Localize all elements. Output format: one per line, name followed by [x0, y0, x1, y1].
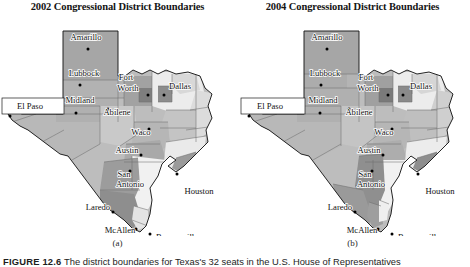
city-dot-brownsville	[391, 233, 394, 236]
city-dot-lubbock	[79, 84, 82, 87]
city-dot-houston	[176, 173, 179, 176]
city-label-abilene: Abilene	[103, 107, 130, 117]
city-dot-amarillo	[87, 48, 90, 51]
district-fort-worth-core	[379, 88, 393, 102]
city-label-worth: Worth	[357, 83, 379, 93]
figure-number: FIGURE 12.6	[3, 256, 61, 267]
city-dot-fort-worth	[147, 94, 150, 97]
city-dot-midland	[75, 112, 78, 115]
panel-2002: 2002 Congressional District Boundaries	[0, 0, 235, 250]
map-2004: Amarillo Lubbock Fort Worth Dallas Midla…	[235, 14, 470, 236]
city-label-austin: Austin	[358, 145, 382, 155]
city-label-antonio: Antonio	[116, 179, 144, 189]
city-label-el-paso: El Paso	[257, 101, 283, 111]
figure-caption: FIGURE 12.6 The district boundaries for …	[3, 256, 469, 267]
city-label-mcallen: McAllen	[347, 225, 378, 235]
city-label-dallas: Dallas	[169, 81, 192, 91]
city-label-worth: Worth	[117, 83, 139, 93]
city-dot-dallas	[402, 94, 405, 97]
city-label-waco: Waco	[374, 127, 393, 137]
city-label-abilene: Abilene	[345, 107, 372, 117]
districts-group-2002	[0, 14, 235, 236]
city-label-waco: Waco	[131, 127, 150, 137]
districts-group-2004	[235, 14, 470, 236]
city-label-brownsville: Brownsville	[156, 232, 198, 236]
city-dot-amarillo	[326, 48, 329, 51]
city-label-fort: Fort	[359, 72, 374, 82]
city-label-midland: Midland	[308, 95, 338, 105]
city-label-midland: Midland	[65, 95, 95, 105]
panel-2004-title: 2004 Congressional District Boundaries	[235, 1, 470, 12]
city-dot-fort-worth	[387, 94, 390, 97]
city-dot-brownsville	[149, 233, 152, 236]
district-fort-worth-core	[139, 88, 152, 102]
city-label-lubbock: Lubbock	[69, 68, 100, 78]
city-label-laredo: Laredo	[328, 202, 352, 212]
city-dot-midland	[319, 112, 322, 115]
city-dot-el-paso	[248, 115, 251, 118]
city-label-el-paso: El Paso	[17, 101, 43, 111]
panel-2002-sublabel: (a)	[0, 238, 235, 248]
city-dot-laredo	[354, 211, 357, 214]
figure-caption-text: The district boundaries for Texas's 32 s…	[64, 256, 401, 267]
panel-2002-title: 2002 Congressional District Boundaries	[0, 1, 235, 12]
city-label-fort: Fort	[119, 72, 134, 82]
texas-map-2004-svg: Amarillo Lubbock Fort Worth Dallas Midla…	[235, 14, 470, 236]
city-dot-laredo	[112, 211, 115, 214]
city-label-houston: Houston	[425, 186, 455, 196]
city-label-antonio: Antonio	[357, 179, 385, 189]
city-label-amarillo: Amarillo	[311, 32, 342, 42]
city-dot-el-paso	[9, 115, 12, 118]
city-label-dallas: Dallas	[410, 81, 433, 91]
panel-2004: 2004 Congressional District Boundaries	[235, 0, 470, 250]
city-label-amarillo: Amarillo	[70, 32, 101, 42]
city-label-austin: Austin	[116, 145, 140, 155]
city-label-mcallen: McAllen	[105, 225, 136, 235]
city-label-san: San	[118, 169, 132, 179]
city-dot-dallas	[163, 94, 166, 97]
panel-2004-sublabel: (b)	[235, 238, 470, 248]
texas-map-2002-svg: Amarillo Lubbock Fort Worth Dallas Midla…	[0, 14, 235, 236]
city-label-lubbock: Lubbock	[310, 68, 341, 78]
city-dot-austin	[382, 154, 385, 157]
city-label-brownsville: Brownsville	[398, 232, 440, 236]
city-label-laredo: Laredo	[86, 202, 110, 212]
city-dot-lubbock	[320, 84, 323, 87]
city-dot-austin	[140, 154, 143, 157]
map-2002: Amarillo Lubbock Fort Worth Dallas Midla…	[0, 14, 235, 236]
city-dot-houston	[417, 173, 420, 176]
city-label-san: San	[359, 169, 373, 179]
city-label-houston: Houston	[184, 186, 214, 196]
